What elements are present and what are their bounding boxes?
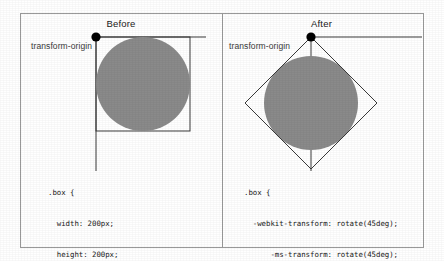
diagram-after (223, 13, 424, 173)
transform-origin-label-after: transform-origin (229, 41, 290, 51)
code-block-before: .box { width: 200px; height: 200px; back… (48, 168, 162, 261)
code-line: height: 200px; (48, 250, 162, 260)
transform-origin-dot-after (306, 32, 315, 41)
code-line: -webkit-transform: rotate(45deg); (244, 219, 398, 229)
code-line: .box { (48, 188, 162, 198)
code-line: -ms-transform: rotate(45deg); (244, 250, 398, 260)
code-line: .box { (244, 188, 398, 198)
transform-origin-dot-before (91, 32, 100, 41)
transform-origin-label-before: transform-origin (31, 41, 92, 51)
css-transform-origin-figure: Before transform-origin After (0, 0, 444, 261)
code-line: width: 200px; (48, 219, 162, 229)
box-shape-before (96, 37, 190, 131)
diagram-before (20, 13, 222, 173)
code-block-after: .box { -webkit-transform: rotate(45deg);… (244, 168, 398, 261)
